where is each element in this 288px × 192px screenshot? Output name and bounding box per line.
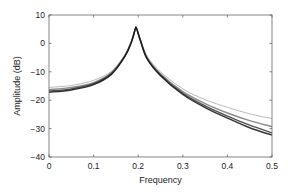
y-axis-label: Amplitude (dB) [12,56,22,116]
x-axis-ticks: 00.10.20.30.40.5 [47,15,279,171]
x-tick-label: 0.5 [266,161,278,171]
x-tick-label: 0 [47,161,52,171]
x-tick-label: 0.3 [177,161,189,171]
y-tick-label: −20 [31,95,46,105]
x-axis-label: Frequency [139,175,182,185]
y-tick-label: −40 [31,152,46,162]
curves [49,27,272,135]
y-tick-label: −30 [31,124,46,134]
x-tick-label: 0.2 [132,161,144,171]
amplitude-frequency-chart: 00.10.20.30.40.5 100−10−20−30−40 Frequen… [0,0,288,192]
y-tick-label: 10 [36,10,46,20]
y-tick-label: 0 [40,38,45,48]
series-line-curve-mid [49,27,272,127]
x-tick-label: 0.4 [221,161,233,171]
series-line-curve-darkest [49,27,272,135]
y-tick-label: −10 [31,67,46,77]
series-line-curve-light [49,27,272,119]
x-tick-label: 0.1 [88,161,100,171]
